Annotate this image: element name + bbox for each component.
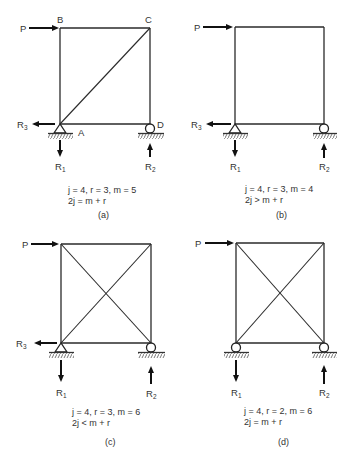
panel-label: (b) <box>276 210 287 220</box>
roller-support <box>313 124 337 139</box>
joint-label-b: B <box>57 14 63 25</box>
reaction-r3: R 3 <box>17 119 55 131</box>
roller-support <box>138 343 165 358</box>
caption-line-2: 2j = m + r <box>244 417 282 427</box>
panel-label: (c) <box>105 437 116 447</box>
reaction-r1: R 1 <box>231 360 242 399</box>
svg-text:R: R <box>231 387 238 398</box>
caption-line-1: j = 4, r = 3, m = 5 <box>67 185 136 195</box>
reaction-r3: R 3 <box>191 119 231 131</box>
reaction-r2: R 2 <box>145 143 156 173</box>
svg-text:R: R <box>191 119 198 130</box>
svg-text:2: 2 <box>152 166 156 173</box>
panel-label: (d) <box>278 437 289 447</box>
caption-line-2: 2j > m + r <box>245 195 283 205</box>
roller-support-right <box>312 343 337 358</box>
svg-text:1: 1 <box>62 166 66 173</box>
reaction-r1: R 1 <box>230 140 241 173</box>
load-arrow-p: P <box>20 23 59 34</box>
truss-members <box>61 244 151 343</box>
svg-text:R: R <box>56 387 63 398</box>
svg-text:2: 2 <box>326 392 330 399</box>
panel-b: P R 3 R 1 R 2 j = 4, <box>191 22 337 220</box>
caption-line-1: j = 4, r = 3, m = 4 <box>244 184 313 194</box>
reaction-r1: R 1 <box>56 360 67 399</box>
svg-text:2: 2 <box>153 393 157 400</box>
panel-c: P R 3 R 1 R 2 j = 4, <box>16 239 165 447</box>
svg-text:R: R <box>319 161 326 172</box>
panel-a: P B C A D R 3 R 1 <box>17 14 164 220</box>
roller-support-left <box>224 343 249 358</box>
load-label: P <box>22 239 28 250</box>
joint-label-a: A <box>78 127 85 138</box>
caption-line-2: 2j = m + r <box>68 196 106 206</box>
truss-members <box>60 28 150 124</box>
load-arrow-p: P <box>22 239 59 250</box>
svg-text:R: R <box>146 388 153 399</box>
svg-text:3: 3 <box>198 124 202 131</box>
load-arrow-p: P <box>194 22 233 33</box>
joint-label-c: C <box>145 14 152 25</box>
reaction-r2: R 2 <box>146 366 157 400</box>
svg-text:R: R <box>145 161 152 172</box>
pin-support <box>49 343 74 358</box>
svg-text:R: R <box>16 338 23 349</box>
panel-d: P R 1 R 2 j = 4, r = 2, m = 6 2j = m + r… <box>195 238 337 447</box>
svg-text:R: R <box>17 119 24 130</box>
load-label: P <box>194 22 200 33</box>
caption-line-1: j = 4, r = 2, m = 6 <box>243 406 312 416</box>
reaction-r3: R 3 <box>16 338 57 350</box>
joint-label-d: D <box>157 119 164 130</box>
pin-support <box>48 124 73 139</box>
load-arrow-p: P <box>195 238 234 249</box>
caption-line-1: j = 4, r = 3, m = 6 <box>71 407 140 417</box>
reaction-r2: R 2 <box>319 365 330 399</box>
reaction-r1: R 1 <box>55 140 66 173</box>
reaction-r2: R 2 <box>319 143 330 173</box>
svg-text:R: R <box>319 387 326 398</box>
load-label: P <box>20 23 26 34</box>
svg-text:1: 1 <box>237 166 241 173</box>
svg-text:3: 3 <box>23 343 27 350</box>
svg-text:R: R <box>230 161 237 172</box>
truss-figure: P B C A D R 3 R 1 <box>0 0 356 462</box>
load-label: P <box>195 238 201 249</box>
svg-text:1: 1 <box>238 392 242 399</box>
pin-support <box>223 124 248 139</box>
svg-text:1: 1 <box>63 392 67 399</box>
svg-text:3: 3 <box>24 124 28 131</box>
truss-members <box>236 243 324 343</box>
panel-label: (a) <box>98 210 109 220</box>
svg-text:R: R <box>55 161 62 172</box>
caption-line-2: 2j < m + r <box>72 418 110 428</box>
svg-text:2: 2 <box>326 166 330 173</box>
truss-members <box>235 27 324 124</box>
